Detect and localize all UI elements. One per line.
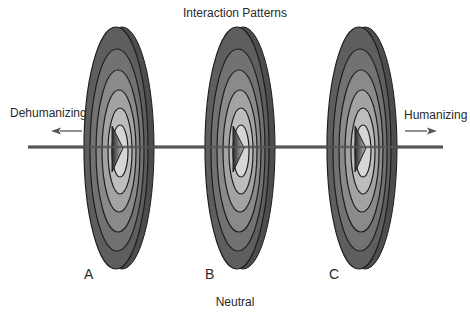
disc-label-b: B xyxy=(205,266,214,282)
arrow-left-icon xyxy=(51,128,82,135)
neutral-label: Neutral xyxy=(0,295,470,309)
disc-label-a: A xyxy=(84,266,93,282)
interaction-patterns-diagram xyxy=(0,0,470,313)
disc-label-c: C xyxy=(329,266,339,282)
arrow-right-icon xyxy=(405,128,437,135)
humanizing-label: Humanizing xyxy=(404,108,467,122)
dehumanizing-label: Dehumanizing xyxy=(10,106,87,120)
